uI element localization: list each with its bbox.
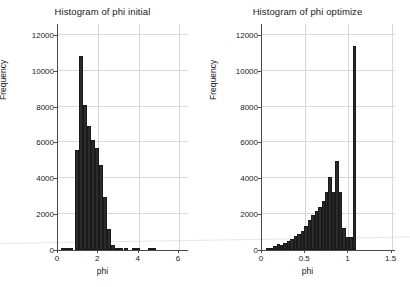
y-tick-label: 2000 (208, 210, 258, 219)
panel-phi-initial: Histogram of phi initial 020004000600080… (0, 0, 205, 287)
panel-phi-optimize: Histogram of phi optimize 02000400060008… (205, 0, 410, 287)
y-tick-mark (258, 214, 261, 215)
y-tick-mark (258, 142, 261, 143)
y-tick-mark (258, 178, 261, 179)
x-axis-right (261, 250, 395, 251)
x-tick-label: 0.5 (299, 254, 310, 263)
histogram-bar (69, 248, 73, 250)
x-tick-label: 1.5 (385, 254, 396, 263)
y-tick-mark (258, 35, 261, 36)
x-tick-mark (178, 250, 179, 253)
x-tick-label: 2 (95, 254, 99, 263)
x-tick-mark (138, 250, 139, 253)
x-tick-label: 0 (55, 254, 59, 263)
x-tick-label: 1 (345, 254, 349, 263)
x-tick-mark (57, 250, 58, 253)
y-tick-label: 12000 (4, 30, 54, 39)
bars-right (261, 24, 395, 250)
y-tick-label: 4000 (4, 174, 54, 183)
y-tick-mark (54, 142, 57, 143)
y-tick-label: 8000 (208, 102, 258, 111)
histogram-bar (152, 248, 156, 250)
y-tick-label: 6000 (4, 138, 54, 147)
x-tick-mark (261, 250, 262, 253)
x-tick-label: 4 (135, 254, 139, 263)
x-axis-left (57, 250, 188, 251)
chart-title-left: Histogram of phi initial (0, 6, 205, 17)
histogram-bar (353, 46, 356, 250)
x-tick-mark (391, 250, 392, 253)
y-tick-label: 4000 (208, 174, 258, 183)
y-tick-label: 10000 (4, 66, 54, 75)
figure-canvas: Histogram of phi initial 020004000600080… (0, 0, 410, 287)
histogram-bar (124, 248, 128, 250)
y-tick-mark (54, 107, 57, 108)
x-tick-mark (97, 250, 98, 253)
y-tick-label: 12000 (208, 30, 258, 39)
y-tick-mark (54, 178, 57, 179)
x-tick-label: 0 (259, 254, 263, 263)
x-axis-label-right: phi (205, 266, 410, 276)
x-tick-mark (347, 250, 348, 253)
y-tick-label: 2000 (4, 210, 54, 219)
y-tick-mark (54, 214, 57, 215)
x-tick-mark (304, 250, 305, 253)
y-tick-mark (54, 71, 57, 72)
x-axis-label-left: phi (0, 266, 205, 276)
y-tick-label: 0 (208, 246, 258, 255)
y-tick-mark (258, 107, 261, 108)
x-tick-label: 6 (176, 254, 180, 263)
y-axis-label-right: Frequency (208, 60, 218, 100)
y-axis-label-left: Frequency (0, 60, 8, 100)
y-tick-mark (54, 35, 57, 36)
y-tick-mark (258, 71, 261, 72)
y-tick-label: 6000 (208, 138, 258, 147)
chart-title-right: Histogram of phi optimize (205, 6, 410, 17)
y-tick-label: 8000 (4, 102, 54, 111)
y-tick-label: 0 (4, 246, 54, 255)
bars-left (57, 24, 188, 250)
